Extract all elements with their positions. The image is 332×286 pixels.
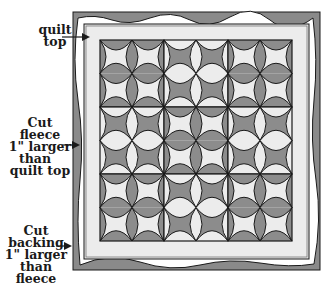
quilt-block-grid [100, 40, 292, 241]
label-fleece: Cut fleece 1" larger than quilt top [6, 117, 74, 177]
label-backing: Cut backing 1" larger than fleece [2, 225, 70, 285]
label-quilt-top: quilt top [38, 24, 72, 48]
